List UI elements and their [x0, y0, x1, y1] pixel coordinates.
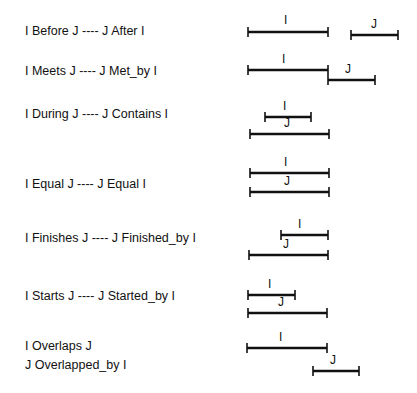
interval-j-bar: J [250, 174, 329, 197]
interval-name-label: I [284, 13, 287, 27]
interval-name-label: J [284, 174, 290, 188]
interval-name-label: I [268, 277, 271, 291]
interval-name-label: J [330, 353, 336, 367]
interval-j-bar: J [313, 353, 359, 376]
interval-name-label: I [282, 52, 285, 66]
interval-j-bar: J [248, 295, 327, 318]
interval-name-label: I [298, 217, 301, 231]
interval-i-bar: I [248, 13, 328, 37]
interval-name-label: J [371, 17, 377, 31]
interval-j-bar: J [351, 17, 398, 40]
interval-j-bar: J [249, 237, 328, 260]
interval-name-label: J [284, 116, 290, 130]
interval-i-bar: I [248, 277, 295, 300]
interval-name-label: J [278, 295, 284, 309]
interval-i-bar: I [248, 52, 328, 75]
interval-name-label: I [284, 155, 287, 169]
interval-name-label: J [283, 237, 289, 251]
interval-j-bar: J [328, 62, 375, 85]
interval-name-label: J [345, 62, 351, 76]
interval-name-label: I [279, 330, 282, 344]
interval-i-bar: I [247, 330, 327, 353]
interval-j-bar: J [250, 116, 329, 139]
interval-bars: IJIJIJIJIJIJIJ [0, 0, 417, 393]
interval-name-label: I [283, 99, 286, 113]
